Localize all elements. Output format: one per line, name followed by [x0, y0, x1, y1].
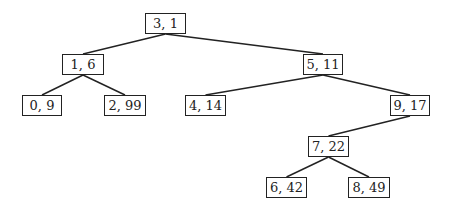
- edge-n16-n09: [42, 75, 83, 95]
- node-9-17: 9, 17: [390, 95, 430, 116]
- tree-diagram: 3, 1 1, 6 5, 11 0, 9 2, 99 4, 14 9, 17 7…: [0, 0, 454, 214]
- edge-n31-n511: [166, 34, 324, 54]
- edge-n511-n414: [206, 75, 324, 95]
- edge-n722-n642: [287, 157, 329, 177]
- node-0-9: 0, 9: [22, 95, 62, 116]
- node-8-49: 8, 49: [348, 177, 390, 198]
- node-7-22: 7, 22: [308, 136, 349, 157]
- edge-n16-n299: [83, 75, 125, 95]
- node-1-6: 1, 6: [62, 54, 104, 75]
- node-4-14: 4, 14: [185, 95, 226, 116]
- edge-n31-n16: [83, 34, 166, 54]
- node-5-11: 5, 11: [303, 54, 343, 75]
- edge-n511-n917: [323, 75, 410, 95]
- edge-n722-n849: [329, 157, 370, 177]
- node-3-1: 3, 1: [145, 13, 186, 34]
- node-6-42: 6, 42: [266, 177, 307, 198]
- edge-n917-n722: [329, 116, 411, 136]
- node-2-99: 2, 99: [104, 95, 146, 116]
